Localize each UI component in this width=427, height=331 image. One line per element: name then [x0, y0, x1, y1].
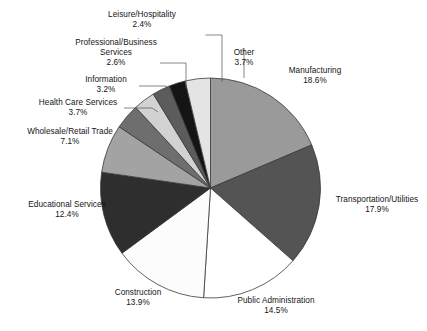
label-text: Educational Services: [8, 200, 126, 210]
label-percent: 3.2%: [60, 85, 152, 95]
pie-slice-group: [101, 78, 321, 298]
label-percent: 2.6%: [58, 58, 174, 68]
label-percent: 18.6%: [270, 76, 360, 86]
label-percent: 12.4%: [8, 210, 126, 220]
label-text: Construction: [96, 288, 180, 298]
slice-label-transportation-utilities: Transportation/Utilities 17.9%: [328, 195, 426, 215]
label-percent: 13.9%: [96, 298, 180, 308]
label-text: Other: [215, 48, 273, 58]
label-text: Manufacturing: [270, 66, 360, 76]
pie-chart: Leisure/Hospitality 2.4% Professional/Bu…: [0, 0, 427, 331]
label-text: Transportation/Utilities: [328, 195, 426, 205]
label-text-line2: Services: [58, 48, 174, 58]
slice-label-manufacturing: Manufacturing 18.6%: [270, 66, 360, 86]
slice-label-public-administration: Public Administration 14.5%: [221, 296, 331, 316]
slice-label-leisure-hospitality: Leisure/Hospitality 2.4%: [82, 10, 202, 30]
label-text: Health Care Services: [24, 98, 132, 108]
label-text: Information: [60, 75, 152, 85]
slice-label-educational-services: Educational Services 12.4%: [8, 200, 126, 220]
slice-label-information: Information 3.2%: [60, 75, 152, 95]
slice-label-wholesale-retail-trade: Wholesale/Retail Trade 7.1%: [11, 127, 129, 147]
label-text: Public Administration: [221, 296, 331, 306]
label-percent: 17.9%: [328, 205, 426, 215]
label-percent: 3.7%: [24, 108, 132, 118]
label-text: Wholesale/Retail Trade: [11, 127, 129, 137]
label-percent: 7.1%: [11, 137, 129, 147]
label-text-line1: Professional/Business: [58, 38, 174, 48]
label-percent: 14.5%: [221, 306, 331, 316]
label-percent: 3.7%: [215, 58, 273, 68]
slice-label-construction: Construction 13.9%: [96, 288, 180, 308]
label-percent: 2.4%: [82, 20, 202, 30]
slice-label-health-care-services: Health Care Services 3.7%: [24, 98, 132, 118]
slice-label-professional-business-services: Professional/Business Services 2.6%: [58, 38, 174, 69]
slice-label-other: Other 3.7%: [215, 48, 273, 68]
label-text: Leisure/Hospitality: [82, 10, 202, 20]
